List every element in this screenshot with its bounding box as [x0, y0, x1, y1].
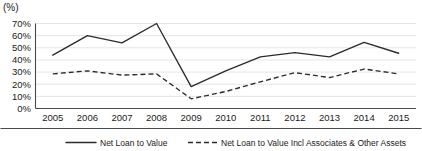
y-axis-tick-label: 10%	[12, 91, 32, 102]
legend-label-net-loan-to-value-incl-associates: Net Loan to Value Incl Associates & Othe…	[221, 138, 406, 148]
chart-canvas: 0%10%20%30%40%50%60%70% 2005200620072008…	[0, 0, 422, 151]
y-axis-tick-label: 0%	[17, 103, 31, 114]
x-axis-tick-label: 2015	[388, 112, 409, 123]
x-axis-tick-label: 2009	[181, 112, 202, 123]
line-chart: (%) 0%10%20%30%40%50%60%70% 200520062007…	[0, 0, 422, 151]
x-axis-tick-label: 2005	[42, 112, 63, 123]
legend-label-net-loan-to-value: Net Loan to Value	[100, 138, 168, 148]
series-line-net-loan-to-value	[53, 24, 399, 87]
x-axis-tick-label: 2010	[215, 112, 236, 123]
x-axis-tick-label: 2014	[354, 112, 375, 123]
x-axis-tick-label: 2012	[284, 112, 305, 123]
y-axis-tick-label: 20%	[12, 79, 32, 90]
y-axis-tick-label: 60%	[12, 30, 32, 41]
x-axis-tick-label: 2011	[250, 112, 270, 123]
y-axis-tick-labels: 0%10%20%30%40%50%60%70%	[12, 18, 32, 114]
y-axis-tick-label: 40%	[12, 54, 32, 65]
x-axis-tick-label: 2008	[146, 112, 167, 123]
legend: Net Loan to Value Net Loan to Value Incl…	[66, 138, 406, 148]
y-axis-tick-label: 70%	[12, 18, 32, 29]
x-axis-tick-label: 2007	[111, 112, 132, 123]
y-axis-tick-label: 30%	[12, 66, 32, 77]
x-axis-tick-label: 2013	[319, 112, 340, 123]
y-axis-tick-label: 50%	[12, 42, 32, 53]
x-axis-tick-labels: 2005200620072008200920102011201220132014…	[42, 112, 409, 123]
x-axis-tick-label: 2006	[77, 112, 98, 123]
